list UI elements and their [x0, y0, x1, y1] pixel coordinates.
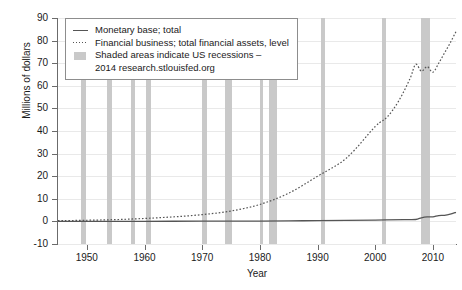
y-tick-label: 70	[8, 58, 48, 68]
x-axis-title: Year	[57, 268, 457, 279]
y-tick-label: 50	[8, 103, 48, 113]
y-tick-mark	[52, 199, 57, 200]
y-tick-mark	[52, 41, 57, 42]
y-tick-mark	[52, 176, 57, 177]
y-tick-mark	[52, 244, 57, 245]
y-tick-label: 60	[8, 81, 48, 91]
legend-label-monetary-base: Monetary base; total	[95, 24, 181, 37]
x-tick-label: 1950	[65, 252, 109, 263]
x-tick-mark	[433, 245, 434, 250]
chart-container: Millions of dollars -1001020304050607080…	[0, 0, 462, 290]
y-tick-label: 30	[8, 149, 48, 159]
x-tick-label: 1980	[238, 252, 282, 263]
y-tick-label: 80	[8, 36, 48, 46]
x-tick-mark	[318, 245, 319, 250]
x-tick-label: 2000	[353, 252, 397, 263]
y-tick-label: 90	[8, 13, 48, 23]
y-tick-label: -10	[8, 239, 48, 249]
solid-line-icon	[72, 25, 89, 36]
x-tick-mark	[145, 245, 146, 250]
x-tick-label: 2010	[411, 252, 455, 263]
legend-item-recessions: Shaded areas indicate US recessions –	[72, 49, 289, 62]
y-tick-mark	[52, 221, 57, 222]
gridline	[58, 244, 456, 245]
dotted-line-icon	[72, 37, 89, 48]
chart-legend: Monetary base; total Financial business;…	[65, 18, 298, 80]
y-tick-mark	[52, 154, 57, 155]
grey-swatch-icon	[72, 50, 89, 61]
y-tick-mark	[52, 86, 57, 87]
y-tick-mark	[52, 18, 57, 19]
x-tick-mark	[375, 245, 376, 250]
legend-item-financial-assets: Financial business; total financial asse…	[72, 37, 289, 50]
y-tick-label: 0	[8, 216, 48, 226]
legend-label-recessions: Shaded areas indicate US recessions –	[95, 49, 261, 62]
x-tick-mark	[87, 245, 88, 250]
x-tick-mark	[202, 245, 203, 250]
x-tick-label: 1960	[123, 252, 167, 263]
y-tick-mark	[52, 131, 57, 132]
y-tick-label: 40	[8, 126, 48, 136]
y-tick-label: 10	[8, 194, 48, 204]
x-tick-label: 1990	[296, 252, 340, 263]
legend-source-note: 2014 research.stlouisfed.org	[72, 62, 289, 75]
x-tick-mark	[260, 245, 261, 250]
x-tick-label: 1970	[180, 252, 224, 263]
legend-label-financial-assets: Financial business; total financial asse…	[95, 37, 289, 50]
legend-item-monetary-base: Monetary base; total	[72, 24, 289, 37]
y-tick-label: 20	[8, 171, 48, 181]
y-tick-mark	[52, 108, 57, 109]
y-tick-mark	[52, 63, 57, 64]
